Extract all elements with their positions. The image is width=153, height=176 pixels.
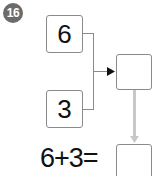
arrow-down-icon — [130, 136, 139, 143]
answer-box[interactable] — [116, 144, 152, 176]
bottom-number-box: 3 — [46, 90, 83, 128]
problem-number-badge: 16 — [3, 3, 23, 23]
equation-text: 6+3= — [40, 143, 98, 174]
result-box[interactable] — [116, 54, 152, 90]
connector-bottom — [83, 109, 93, 110]
arrow-right-icon — [107, 67, 115, 76]
top-number-box: 6 — [46, 15, 83, 53]
down-arrow-line — [133, 90, 136, 140]
connector-top — [83, 33, 93, 34]
